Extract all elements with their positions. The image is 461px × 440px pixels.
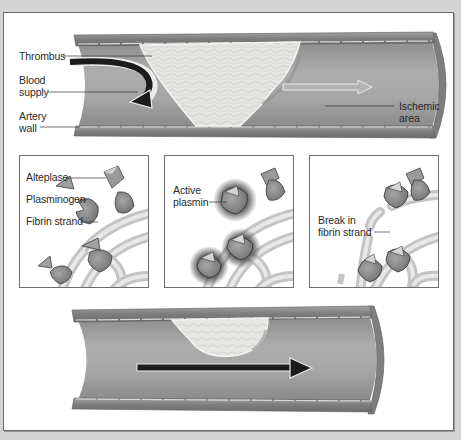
label-plasminogen: Plasminogen	[26, 193, 86, 205]
label-thrombus: Thrombus	[19, 50, 65, 62]
label-break-in: Break in	[318, 214, 356, 226]
label-active: Active	[173, 184, 201, 196]
label-artery-wall-1: Artery	[19, 110, 46, 122]
label-alteplase: Alteplase	[26, 171, 68, 183]
label-blood-supply-2: supply	[19, 86, 49, 98]
label-plasmin: plasmin	[173, 196, 208, 208]
label-fibrin-strand: Fibrin strand	[26, 215, 83, 227]
label-artery-wall-2: wall	[19, 122, 37, 134]
label-blood-supply-1: Blood	[19, 74, 45, 86]
label-fibrin-strand-break: fibrin strand	[318, 226, 372, 238]
alteplase-molecule	[104, 166, 124, 188]
panel-alteplase-binding: Alteplase Plasminogen Fibrin strand	[19, 155, 149, 288]
panel-active-plasmin: Active plasmin	[164, 155, 294, 288]
active-plasmin-illustration	[165, 156, 293, 287]
thrombolysis-diagram: Thrombus Blood supply Artery wall Ischem…	[0, 0, 461, 440]
label-ischemic-1: Ischemic	[399, 100, 440, 112]
panel-fibrin-break: Break in fibrin strand	[309, 155, 439, 288]
top-artery-illustration	[0, 0, 461, 150]
label-ischemic-2: area	[399, 112, 420, 124]
